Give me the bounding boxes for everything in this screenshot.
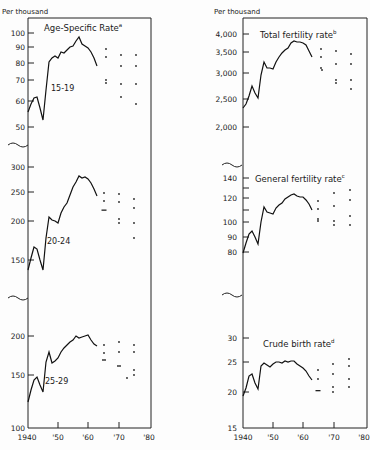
line-15-19 [28, 37, 97, 120]
y-ticks-tfr: 4,000 3,500 3,000 2,500 2,000 [216, 30, 249, 132]
line-tfr [243, 41, 312, 108]
line-20-24 [28, 176, 97, 270]
line-25-29 [28, 335, 97, 402]
svg-text:'50: '50 [267, 433, 279, 442]
svg-text:100: 100 [223, 218, 238, 227]
axis-break-icon [222, 163, 242, 167]
svg-text:140: 140 [223, 174, 238, 183]
projection-dots-gfr [317, 189, 351, 226]
label-25-29: 25-29 [45, 377, 68, 386]
svg-text:'70: '70 [113, 433, 125, 442]
axis-break-icon [8, 296, 28, 300]
cbr-title: Crude birth rated [263, 338, 335, 349]
projection-dots-25-29 [102, 341, 135, 379]
svg-text:2,500: 2,500 [216, 95, 238, 104]
right-unit-label: Per thousand [214, 8, 260, 16]
left-x-ticks: 1940 '50 '60 '70 '80 [17, 422, 155, 442]
y-ticks-20-24: 300 250 200 150 [11, 163, 34, 265]
svg-text:2,000: 2,000 [216, 123, 238, 132]
left-panel: Per thousand Age-Specific Ratea 100 90 8… [2, 8, 155, 442]
svg-text:200: 200 [11, 332, 26, 341]
svg-text:120: 120 [223, 194, 238, 203]
y-ticks-15-19: 100 90 80 70 60 50 [11, 29, 34, 132]
svg-text:90: 90 [15, 43, 25, 52]
y-ticks-cbr: 30 25 20 15 [227, 334, 249, 433]
tfr-title: Total fertility rateb [259, 29, 337, 40]
svg-text:250: 250 [11, 188, 26, 197]
svg-text:1940: 1940 [233, 433, 252, 442]
svg-text:'80: '80 [358, 433, 370, 442]
right-x-ticks: 1940 '50 '60 '70 '80 [233, 422, 370, 442]
svg-text:80: 80 [15, 59, 25, 68]
fertility-chart-figure: Per thousand Age-Specific Ratea 100 90 8… [0, 0, 370, 450]
svg-text:'50: '50 [52, 433, 64, 442]
svg-text:200: 200 [11, 217, 26, 226]
svg-text:90: 90 [227, 233, 237, 242]
right-panel: Per thousand Total fertility rateb 4,000… [214, 8, 370, 442]
left-unit-label: Per thousand [2, 8, 48, 16]
label-15-19: 15-19 [51, 84, 74, 93]
label-20-24: 20-24 [47, 237, 70, 246]
svg-text:3,500: 3,500 [216, 48, 238, 57]
projection-dots-cbr [316, 358, 350, 393]
gfr-title: General fertility ratec [255, 173, 345, 184]
svg-text:100: 100 [11, 424, 26, 433]
svg-text:80: 80 [227, 248, 237, 257]
axis-break-icon [8, 143, 28, 147]
svg-text:'60: '60 [82, 433, 94, 442]
svg-text:150: 150 [11, 371, 26, 380]
svg-text:3,000: 3,000 [216, 69, 238, 78]
svg-text:150: 150 [11, 256, 26, 265]
line-cbr [243, 361, 312, 396]
svg-text:70: 70 [15, 76, 25, 85]
svg-text:50: 50 [15, 123, 25, 132]
svg-text:1940: 1940 [17, 433, 36, 442]
svg-text:25: 25 [227, 358, 237, 367]
projection-dots-20-24 [102, 192, 135, 239]
left-title: Age-Specific Ratea [44, 22, 122, 33]
svg-text:20: 20 [227, 388, 237, 397]
projection-dots-15-19 [105, 48, 137, 105]
svg-text:4,000: 4,000 [216, 30, 238, 39]
projection-dots-tfr [320, 48, 352, 90]
axis-break-icon [222, 293, 242, 297]
svg-text:'80: '80 [143, 433, 155, 442]
svg-text:15: 15 [227, 424, 237, 433]
svg-text:100: 100 [11, 29, 26, 38]
svg-text:'70: '70 [328, 433, 340, 442]
svg-text:60: 60 [15, 97, 25, 106]
line-gfr [243, 194, 312, 253]
y-ticks-25-29: 200 150 100 [11, 332, 34, 433]
svg-text:'60: '60 [297, 433, 309, 442]
svg-text:300: 300 [11, 163, 26, 172]
svg-text:30: 30 [227, 334, 237, 343]
